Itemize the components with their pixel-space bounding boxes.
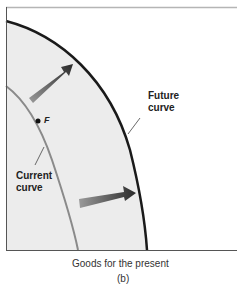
current-curve-label: Current curve <box>16 170 52 194</box>
future-curve-label-line1: Future <box>148 90 179 102</box>
current-curve-label-line1: Current <box>16 170 52 182</box>
current-curve-label-line2: curve <box>16 182 52 194</box>
future-curve-label: Future curve <box>148 90 179 114</box>
point-f-label: F <box>44 114 50 126</box>
point-f-marker <box>36 119 41 124</box>
future-curve-leader <box>128 118 140 134</box>
panel-label: (b) <box>117 273 129 284</box>
x-axis-label: Goods for the present <box>72 258 169 269</box>
future-curve-label-line2: curve <box>148 102 179 114</box>
